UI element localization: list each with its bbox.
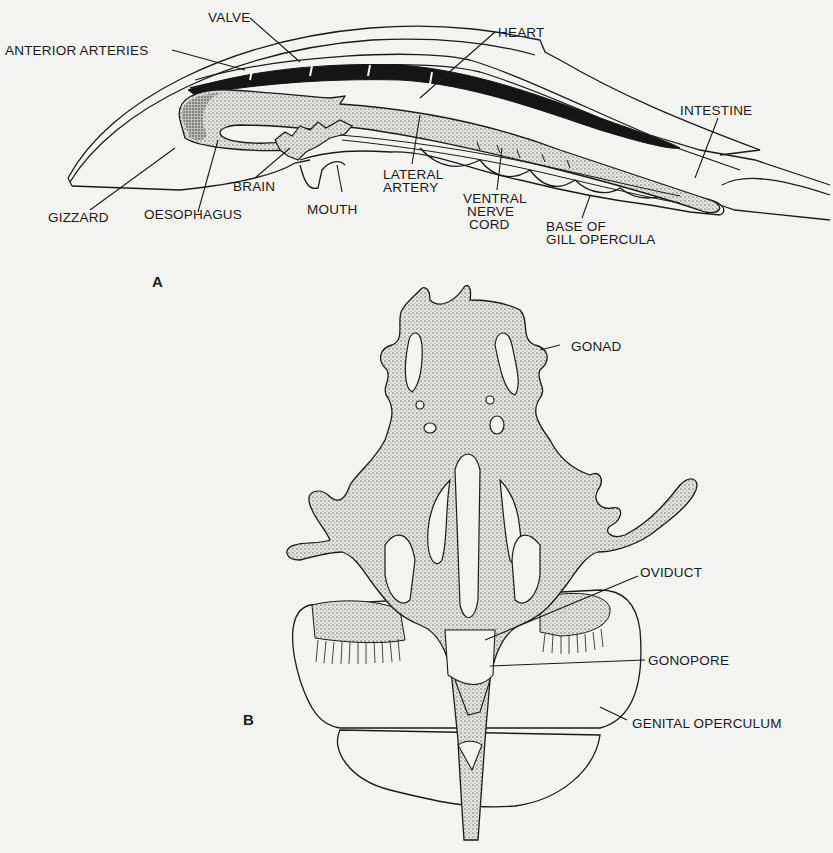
- label-ventral-nerve-cord-line3: CORD: [469, 218, 510, 232]
- label-valve: VALVE: [208, 11, 251, 25]
- label-gonopore: GONOPORE: [648, 654, 729, 668]
- label-genital-operculum: GENITAL OPERCULUM: [632, 717, 782, 731]
- label-mouth: MOUTH: [307, 203, 358, 217]
- label-anterior-arteries: ANTERIOR ARTERIES: [5, 44, 148, 58]
- label-intestine: INTESTINE: [680, 104, 752, 118]
- carapace-outline: [68, 26, 760, 178]
- label-lateral-artery-line2: ARTERY: [383, 181, 438, 195]
- label-base-gill-opercula-line2: GILL OPERCULA: [546, 233, 655, 247]
- panel-letter-a: A: [152, 273, 163, 290]
- label-gizzard: GIZZARD: [48, 211, 109, 225]
- panel-letter-b: B: [243, 711, 254, 728]
- label-brain: BRAIN: [233, 180, 275, 194]
- label-gonad: GONAD: [571, 340, 622, 354]
- label-oesophagus: OESOPHAGUS: [144, 208, 242, 222]
- label-oviduct: OVIDUCT: [640, 566, 702, 580]
- label-heart: HEART: [498, 26, 545, 40]
